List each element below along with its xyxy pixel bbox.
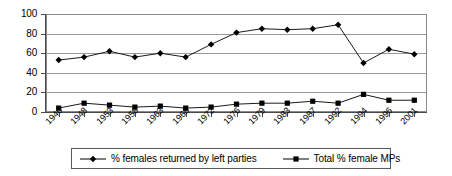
data-point-diamond — [183, 54, 189, 60]
data-point-diamond — [284, 26, 290, 32]
legend-label-0: % females returned by left parties — [111, 154, 257, 164]
data-point-diamond — [90, 155, 96, 161]
data-point-diamond — [157, 50, 163, 56]
data-point-diamond — [233, 29, 239, 35]
y-axis: 020406080100 — [0, 0, 46, 126]
legend-entry-1: Total % female MPs — [283, 154, 401, 164]
data-point-square — [412, 98, 417, 103]
data-point-diamond — [310, 26, 316, 32]
legend-label-1: Total % female MPs — [314, 154, 401, 164]
data-point-diamond — [386, 46, 392, 52]
data-point-diamond — [106, 48, 112, 54]
y-tick-label: 100 — [21, 9, 37, 19]
line-chart: 020406080100 194619481953195819631968197… — [0, 0, 452, 176]
data-point-diamond — [208, 41, 214, 47]
legend-marker-diamond-icon — [80, 154, 106, 164]
y-tick-label: 60 — [26, 48, 37, 58]
data-point-square — [361, 92, 366, 97]
series-0 — [56, 22, 418, 67]
legend-marker-square-icon — [283, 154, 309, 164]
data-point-diamond — [56, 57, 62, 63]
y-tick-label: 0 — [32, 107, 37, 117]
data-point-square — [293, 156, 298, 161]
data-point-square — [310, 99, 315, 104]
data-point-diamond — [335, 22, 341, 28]
legend-entry-0: % females returned by left parties — [80, 154, 257, 164]
data-point-diamond — [360, 60, 366, 66]
data-point-square — [386, 98, 391, 103]
y-tick-label: 80 — [26, 29, 37, 39]
y-tick-label: 20 — [26, 87, 37, 97]
data-point-diamond — [81, 54, 87, 60]
data-point-diamond — [411, 51, 417, 57]
chart-legend: % females returned by left parties Total… — [71, 148, 391, 169]
data-point-diamond — [132, 54, 138, 60]
series-layer — [46, 14, 427, 112]
y-tick-label: 40 — [26, 68, 37, 78]
data-point-diamond — [259, 26, 265, 32]
